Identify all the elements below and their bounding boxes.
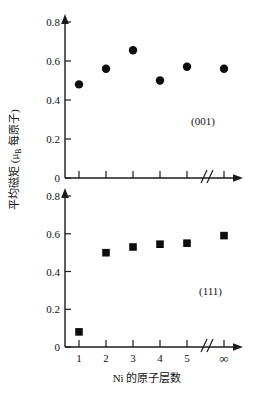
data-point — [102, 65, 110, 73]
top-x-axis — [65, 174, 243, 182]
data-point — [156, 76, 164, 84]
panel-top-001: 0 0.2 0.4 0.6 0.8 — [46, 14, 243, 184]
data-point — [129, 46, 137, 54]
bottom-xtick-label-infinity: ∞ — [219, 351, 228, 366]
data-point — [75, 80, 83, 88]
top-series-points — [75, 46, 228, 89]
panel-label-top: (001) — [191, 115, 215, 128]
data-point — [102, 249, 110, 257]
data-point — [156, 240, 164, 248]
svg-text:平均磁矩 (μB 每原子): 平均磁矩 (μB 每原子) — [7, 109, 23, 210]
y-axis-title-tail: 每原子) — [7, 109, 21, 149]
bottom-xtick-label-5: 5 — [184, 352, 190, 364]
top-ytick-label-0: 0 — [55, 172, 61, 184]
top-ytick-label-06: 0.6 — [46, 55, 60, 67]
magnetic-moment-figure: 0 0.2 0.4 0.6 0.8 — [0, 0, 254, 394]
bottom-x-ticks — [79, 340, 224, 347]
panel-label-bottom: (111) — [199, 285, 222, 298]
data-point — [183, 63, 191, 71]
bottom-ytick-label-0: 0 — [55, 341, 61, 353]
y-axis-title-group: 平均磁矩 (μB 每原子) — [7, 109, 23, 210]
bottom-xtick-label-1: 1 — [76, 352, 82, 364]
bottom-xtick-label-4: 4 — [157, 352, 163, 364]
bottom-xtick-label-2: 2 — [103, 352, 109, 364]
top-axis-break-icon — [201, 170, 213, 183]
data-point — [75, 328, 83, 336]
data-point — [220, 232, 228, 240]
data-point — [220, 65, 228, 73]
bottom-y-ticks — [65, 196, 71, 347]
bottom-y-axis — [61, 188, 69, 347]
chart-canvas: 0 0.2 0.4 0.6 0.8 — [0, 0, 254, 394]
data-point — [183, 239, 191, 247]
bottom-series-points — [75, 232, 228, 336]
panel-bottom-111: 0 0.2 0.4 0.6 0.8 1 2 3 4 — [46, 188, 243, 366]
bottom-x-axis — [65, 343, 243, 351]
bottom-xtick-label-3: 3 — [130, 352, 136, 364]
data-point — [129, 243, 137, 251]
top-y-axis — [61, 14, 69, 178]
bottom-axis-break-icon — [201, 339, 213, 352]
top-ytick-label-02: 0.2 — [46, 133, 60, 145]
bottom-ytick-label-08: 0.8 — [46, 190, 60, 202]
top-ytick-label-04: 0.4 — [46, 94, 60, 106]
top-y-ticks — [65, 22, 71, 178]
bottom-ytick-label-06: 0.6 — [46, 228, 60, 240]
bottom-ytick-label-04: 0.4 — [46, 266, 60, 278]
top-x-ticks — [79, 171, 224, 178]
bottom-ytick-label-02: 0.2 — [46, 303, 60, 315]
x-axis-title: Ni 的原子层数 — [113, 371, 182, 384]
y-axis-title-main: 平均磁矩 (μ — [8, 154, 21, 210]
top-ytick-label-08: 0.8 — [46, 16, 60, 28]
